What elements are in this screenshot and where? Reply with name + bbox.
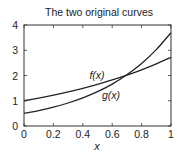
curve-label-g: g(x) <box>102 89 120 101</box>
y-tick-label: 1 <box>12 95 18 107</box>
y-tick-label: 4 <box>12 19 18 31</box>
chart-title: The two original curves <box>45 6 153 18</box>
chart: The two original curves 00.20.40.60.81 0… <box>0 0 180 157</box>
x-tick-label: 0.8 <box>134 128 149 140</box>
curve-label-f: f(x) <box>89 69 104 81</box>
x-tick-label: 1 <box>168 128 174 140</box>
x-tick-label: 0.2 <box>46 128 61 140</box>
y-tick-label: 3 <box>12 44 18 56</box>
x-tick-label: 0.6 <box>105 128 120 140</box>
x-axis: 00.20.40.60.81 <box>21 25 174 140</box>
x-tick-label: 0 <box>21 128 27 140</box>
y-tick-label: 2 <box>12 70 18 82</box>
y-tick-label: 0 <box>12 120 18 132</box>
x-axis-label: x <box>93 140 100 152</box>
x-tick-label: 0.4 <box>75 128 90 140</box>
